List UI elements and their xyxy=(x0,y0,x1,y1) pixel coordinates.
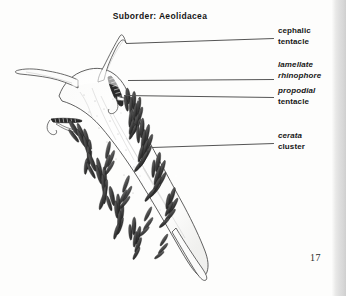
page-edge-shadow xyxy=(332,0,346,296)
label-cerata-cluster: cerata cluster xyxy=(278,131,305,152)
label-lamellate-line2: rhinophore xyxy=(278,71,321,82)
label-cephalic-line2: tentacle xyxy=(278,37,311,48)
book-page: Suborder: Aeolidacea cephalic tentacle l… xyxy=(0,0,346,296)
label-cerata-line2: cluster xyxy=(278,142,305,153)
label-cephalic-line1: cephalic xyxy=(278,26,311,37)
figure-title: Suborder: Aeolidacea xyxy=(0,11,320,21)
animal-body-group xyxy=(15,35,208,281)
label-propodial-line1: propodial xyxy=(278,86,315,97)
page-number: 17 xyxy=(310,252,321,263)
label-propodial-line2: tentacle xyxy=(278,97,315,108)
label-lamellate-rhinophore: lamellate rhinophore xyxy=(278,60,321,81)
label-lamellate-line1: lamellate xyxy=(278,60,321,71)
label-propodial-tentacle: propodial tentacle xyxy=(278,86,315,107)
label-cerata-line1: cerata xyxy=(278,131,305,142)
label-cephalic-tentacle: cephalic tentacle xyxy=(278,26,311,47)
